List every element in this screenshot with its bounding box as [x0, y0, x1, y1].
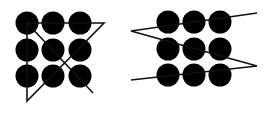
- dot: [209, 64, 232, 87]
- solution-line: [27, 23, 104, 101]
- dot: [42, 65, 65, 88]
- nine-dots-diagram: [0, 0, 274, 113]
- figure-four-line-solution: [16, 12, 105, 102]
- dot: [69, 39, 92, 62]
- dot: [209, 38, 232, 61]
- dot: [157, 11, 180, 34]
- dot: [183, 64, 206, 87]
- figure-three-line-solution: [131, 11, 257, 87]
- dot: [209, 11, 232, 34]
- dot: [69, 65, 92, 88]
